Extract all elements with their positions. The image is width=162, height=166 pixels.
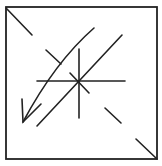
diagram-figure: [0, 0, 162, 166]
curved-arrow-shaft: [23, 28, 94, 122]
bottom-right-corner-mark: [136, 139, 157, 159]
upper-tick-mark: [46, 50, 61, 64]
frame-border: [6, 7, 157, 159]
top-left-corner-mark: [6, 8, 32, 35]
lower-tick-mark: [105, 108, 121, 123]
figure-caption: [2, 161, 162, 166]
